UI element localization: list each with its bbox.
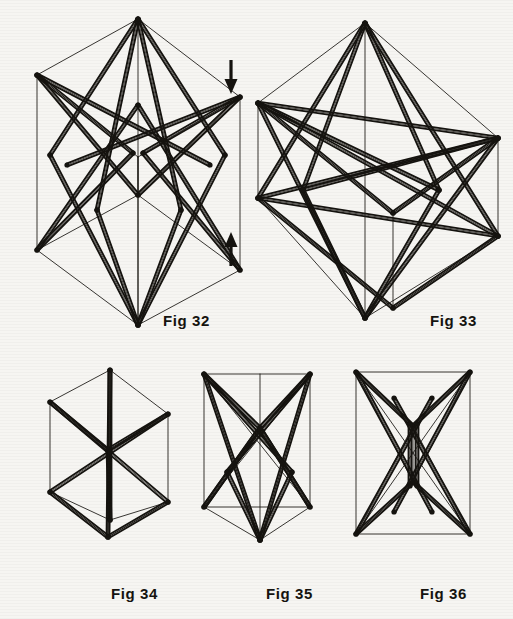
strut-node [495, 233, 500, 238]
strut-node [130, 150, 135, 155]
strut-edge [257, 199, 392, 309]
strut-edge [394, 237, 499, 309]
strut-node [362, 315, 367, 320]
strut-node [362, 20, 367, 25]
frame-edge [110, 370, 168, 414]
strut-edge [259, 374, 309, 540]
figure-fig35 [192, 362, 327, 547]
figure-fig34 [38, 362, 178, 542]
frame-edge [50, 370, 110, 402]
strut-edge [203, 427, 259, 506]
strut-node [207, 162, 212, 167]
strut-node [353, 531, 358, 536]
strut-node [47, 399, 52, 404]
strut-node [307, 504, 312, 509]
strut-node [467, 531, 472, 536]
strut-node [47, 152, 52, 157]
frame-edge [37, 19, 138, 75]
strut-edge [36, 152, 132, 249]
strut-node [34, 72, 39, 77]
strut-core [108, 414, 168, 450]
strut-core [204, 428, 260, 507]
strut-edge [393, 399, 469, 535]
strut-core [50, 492, 108, 537]
fig33-struts [255, 20, 500, 320]
strut-node [255, 100, 260, 105]
strut-node [390, 305, 395, 310]
figure-label-fig34: Fig 34 [111, 585, 158, 602]
strut-node [201, 371, 206, 376]
strut-node [391, 509, 396, 514]
strut-node [353, 369, 358, 374]
strut-edge [261, 427, 311, 506]
strut-edge [107, 413, 167, 449]
figure-fig36 [342, 362, 487, 547]
strut-node [201, 504, 206, 509]
strut-edge [357, 371, 433, 511]
strut-node [165, 411, 170, 416]
frame-edge [258, 198, 365, 318]
strut-edge [109, 503, 169, 538]
arrow-up-icon [225, 232, 238, 266]
strut-node [407, 421, 412, 426]
strut-node [107, 517, 112, 522]
strut-core [138, 19, 181, 210]
strut-core [108, 502, 168, 537]
strut-node [436, 187, 441, 192]
strut-node [107, 367, 112, 372]
fig35-thin-edges [204, 374, 310, 540]
strut-edge [137, 209, 180, 324]
strut-node [407, 483, 412, 488]
strut-core [138, 210, 181, 325]
strut-edge [51, 401, 109, 449]
strut-node [257, 425, 262, 430]
strut-edge [228, 471, 261, 539]
strut-node [135, 322, 140, 327]
strut-core [260, 428, 310, 507]
strut-edge [49, 403, 107, 451]
strut-edge [38, 154, 134, 251]
strut-edge [98, 210, 139, 325]
strut-node [300, 187, 305, 192]
strut-node [178, 207, 183, 212]
fig32-struts [34, 16, 242, 327]
strut-node [105, 534, 110, 539]
figure-label-fig32: Fig 32 [163, 312, 210, 329]
strut-edge [259, 429, 309, 508]
strut-node [64, 162, 69, 167]
figure-label-fig36: Fig 36 [420, 585, 467, 602]
strut-node [467, 369, 472, 374]
strut-edge [139, 211, 182, 326]
compression-arrows [214, 52, 248, 274]
fig32-thin-edges [37, 19, 240, 325]
figure-label-fig33: Fig 33 [430, 312, 477, 329]
strut-node [255, 195, 260, 200]
arrow-down-icon [225, 60, 238, 94]
strut-node [307, 371, 312, 376]
strut-edge [51, 491, 109, 536]
fig35-struts [201, 371, 312, 542]
strut-node [47, 489, 52, 494]
strut-node [107, 449, 112, 454]
figure-plate: Fig 32 Fig 33 Fig 34 Fig 35 Fig 36 [0, 0, 513, 619]
strut-edge [393, 371, 469, 511]
strut-node [34, 247, 39, 252]
strut-node [429, 509, 434, 514]
fig36-thin-edges [356, 372, 470, 534]
strut-node [135, 102, 140, 107]
strut-edge [49, 493, 107, 538]
strut-node [390, 210, 395, 215]
strut-core [37, 153, 133, 250]
strut-edge [109, 415, 169, 451]
strut-edge [259, 471, 291, 539]
strut-edge [205, 429, 261, 508]
strut-node [165, 499, 170, 504]
strut-node [135, 192, 140, 197]
figure-label-fig35: Fig 35 [266, 585, 313, 602]
strut-node [414, 483, 419, 488]
strut-edge [357, 399, 433, 535]
strut-node [495, 135, 500, 140]
strut-edge [259, 197, 394, 307]
strut-node [391, 395, 396, 400]
strut-node [140, 150, 145, 155]
